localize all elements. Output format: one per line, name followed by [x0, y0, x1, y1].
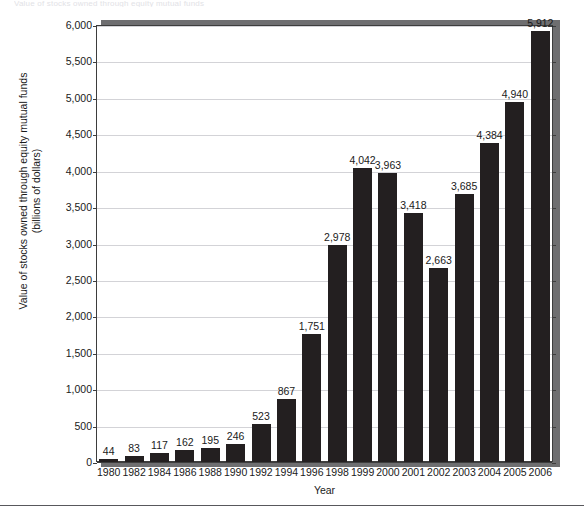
bar — [378, 173, 397, 462]
bar — [429, 268, 448, 462]
x-tick-label: 1982 — [120, 466, 148, 478]
gridline-0 — [97, 462, 552, 463]
bar — [99, 459, 118, 462]
bar — [455, 194, 474, 462]
x-tick-label: 1980 — [95, 466, 123, 478]
bars-group: 44831171621952465238671,7512,9784,0423,9… — [96, 25, 553, 462]
bar — [302, 334, 321, 462]
bar — [277, 399, 296, 462]
bar-value-label: 3,963 — [367, 160, 409, 171]
x-tick-label: 1994 — [272, 466, 300, 478]
bar-value-label: 867 — [265, 386, 307, 397]
y-tick-label: 2,000 — [48, 311, 92, 321]
y-tick-label: 4,500 — [48, 129, 92, 139]
y-tick-label: 3,000 — [48, 239, 92, 249]
x-tick-label: 2005 — [501, 466, 529, 478]
bar — [150, 453, 169, 462]
bar-value-label: 523 — [240, 411, 282, 422]
x-tick-label: 1984 — [145, 466, 173, 478]
y-tick-label: 4,000 — [48, 166, 92, 176]
y-axis-title-line1: Value of stocks owned through equity mut… — [17, 73, 29, 310]
x-axis-tick-labels: 1980198219841986198819901992199419961998… — [96, 466, 553, 480]
x-tick-label: 2002 — [425, 466, 453, 478]
bar-value-label: 2,663 — [418, 255, 460, 266]
bar-chart-figure: 05001,0001,5002,0002,5003,0003,5004,0004… — [0, 0, 584, 519]
bar-value-label: 4,384 — [469, 130, 511, 141]
x-tick-label: 2001 — [399, 466, 427, 478]
bar — [252, 424, 271, 462]
bar — [531, 31, 550, 462]
y-tick-label: 5,000 — [48, 93, 92, 103]
y-tick-label: 1,500 — [48, 348, 92, 358]
x-axis-title: Year — [96, 484, 553, 496]
bar-value-label: 246 — [215, 431, 257, 442]
bar — [201, 448, 220, 462]
bar — [353, 168, 372, 462]
bar — [175, 450, 194, 462]
x-tick-label: 1999 — [349, 466, 377, 478]
y-tick-left — [93, 463, 97, 464]
x-tick-label: 2003 — [450, 466, 478, 478]
x-tick-label: 1996 — [298, 466, 326, 478]
y-tick-label: 500 — [48, 421, 92, 431]
bar-value-label: 4,940 — [494, 89, 536, 100]
bar — [226, 444, 245, 462]
y-tick-label: 5,500 — [48, 56, 92, 66]
y-axis-title: Value of stocks owned through equity mut… — [17, 11, 43, 371]
bar — [328, 245, 347, 462]
bar-value-label: 5,912 — [519, 18, 561, 29]
y-tick-label: 0 — [48, 457, 92, 467]
x-tick-label: 1992 — [247, 466, 275, 478]
bar — [125, 456, 144, 462]
bar — [404, 213, 423, 462]
x-tick-label: 2004 — [476, 466, 504, 478]
x-tick-label: 1988 — [196, 466, 224, 478]
y-tick-label: 2,500 — [48, 275, 92, 285]
y-tick-label: 1,000 — [48, 384, 92, 394]
bar-value-label: 2,978 — [316, 232, 358, 243]
y-tick-label: 3,500 — [48, 202, 92, 212]
x-tick-label: 1990 — [222, 466, 250, 478]
x-tick-label: 1986 — [171, 466, 199, 478]
bar — [480, 143, 499, 462]
bar-value-label: 3,418 — [392, 200, 434, 211]
y-axis-title-line2: (billions of dollars) — [30, 149, 42, 234]
x-tick-label: 2006 — [526, 466, 554, 478]
x-tick-label: 2000 — [374, 466, 402, 478]
y-tick-label: 6,000 — [48, 20, 92, 30]
bottom-rule — [0, 505, 584, 506]
y-tick-right — [552, 463, 556, 464]
bar-value-label: 1,751 — [291, 321, 333, 332]
x-tick-label: 1998 — [323, 466, 351, 478]
bar-value-label: 3,685 — [443, 181, 485, 192]
bar — [505, 102, 524, 462]
